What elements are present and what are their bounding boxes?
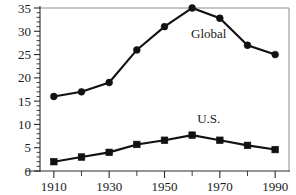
data-point-marker — [161, 23, 168, 30]
data-point-marker — [161, 137, 168, 144]
y-tick-label: 5 — [25, 140, 32, 155]
y-axis: 05101520253035 — [18, 1, 40, 179]
data-point-marker — [244, 42, 251, 49]
data-point-marker — [106, 149, 113, 156]
y-axis-major-ticks — [34, 8, 40, 171]
series-label-us: U.S. — [197, 111, 220, 126]
data-point-marker — [189, 5, 196, 12]
x-tick-label: 1910 — [41, 179, 67, 194]
series-global — [50, 5, 278, 100]
data-line-global — [54, 8, 275, 96]
data-point-marker — [272, 51, 279, 58]
data-point-marker — [217, 137, 224, 144]
data-point-marker — [189, 132, 196, 139]
data-point-marker — [106, 79, 113, 86]
x-axis: 19101930195019701990 — [26, 171, 290, 194]
y-tick-label: 35 — [18, 1, 31, 16]
series-us — [51, 132, 279, 165]
series-label-global: Global — [191, 26, 227, 41]
data-point-marker — [50, 93, 57, 100]
y-tick-label: 25 — [18, 47, 31, 62]
data-point-marker — [134, 141, 141, 148]
line-chart: 05101520253035 19101930195019701990 Glob… — [0, 0, 296, 195]
x-tick-label: 1970 — [207, 179, 233, 194]
chart-canvas: 05101520253035 19101930195019701990 Glob… — [0, 0, 296, 195]
y-tick-label: 15 — [18, 94, 31, 109]
data-point-marker — [133, 47, 140, 54]
data-point-marker — [78, 88, 85, 95]
y-tick-label: 20 — [18, 70, 31, 85]
series-annotations: GlobalU.S. — [191, 26, 227, 127]
y-tick-label: 10 — [18, 117, 31, 132]
data-point-marker — [78, 154, 85, 161]
y-tick-label: 30 — [18, 24, 31, 39]
x-axis-major-ticks — [54, 171, 275, 178]
data-point-marker — [51, 158, 58, 165]
x-axis-tick-labels: 19101930195019701990 — [41, 179, 288, 194]
y-axis-tick-labels: 05101520253035 — [18, 1, 31, 179]
x-tick-label: 1930 — [96, 179, 122, 194]
x-tick-label: 1950 — [152, 179, 178, 194]
x-tick-label: 1990 — [262, 179, 288, 194]
data-point-marker — [272, 146, 279, 153]
data-point-marker — [216, 15, 223, 22]
data-point-marker — [244, 142, 251, 149]
